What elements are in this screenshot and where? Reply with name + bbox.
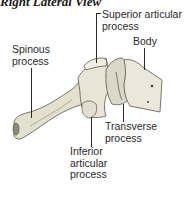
label-superior-articular-process: Superior articular process (102, 9, 182, 32)
leader-body (144, 48, 145, 70)
vertebral-body-shape (124, 59, 162, 112)
spinous-process-shape (14, 80, 84, 139)
label-body: Body (133, 36, 157, 48)
label-inferior-articular-process: Inferior articular process (70, 146, 107, 181)
label-transverse-process: Transverse process (105, 121, 157, 144)
leader-spinous (31, 68, 32, 118)
spinous-tip (13, 123, 19, 135)
leader-inferior-articular (91, 117, 92, 147)
label-spinous-process: Spinous process (12, 44, 50, 67)
leader-superior-articular-vertical (96, 13, 97, 63)
inferior-articular-process-shape (82, 101, 97, 118)
